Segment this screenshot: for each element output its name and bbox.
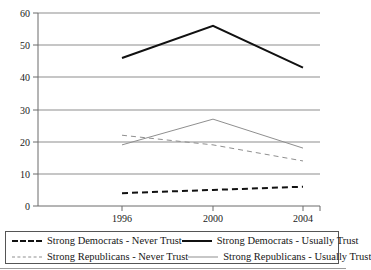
legend-item-strong-republicans-usually-trust[interactable]: Strong Republicans - Usually Trust	[188, 249, 371, 264]
y-tick-20: 20	[20, 137, 30, 148]
page-bottom-rule	[0, 268, 346, 269]
chart-legend: Strong Democrats - Never Trust Strong De…	[5, 231, 339, 264]
legend-label-dem-never-trust: Strong Democrats - Never Trust	[47, 235, 182, 247]
legend-label-rep-usually-trust: Strong Republicans - Usually Trust	[223, 251, 371, 263]
legend-row-1: Strong Democrats - Never Trust Strong De…	[6, 233, 338, 248]
legend-item-strong-democrats-never-trust[interactable]: Strong Democrats - Never Trust	[6, 233, 182, 248]
y-tick-60: 60	[20, 8, 30, 19]
y-tick-50: 50	[20, 40, 30, 51]
x-tick-2000: 2000	[203, 213, 223, 224]
y-tick-10: 10	[20, 169, 30, 180]
cropped-title-sliver	[0, 0, 346, 7]
legend-swatch-dem-usually-trust	[182, 236, 212, 246]
x-tick-2004: 2004	[293, 213, 313, 224]
x-tick-1996: 1996	[112, 213, 132, 224]
plot-area: 60 50 40 30 20 10 0 1996 2000 2004	[0, 7, 346, 226]
series-line-1	[122, 26, 303, 68]
legend-item-strong-democrats-usually-trust[interactable]: Strong Democrats - Usually Trust	[182, 233, 359, 248]
y-axis	[33, 13, 38, 206]
y-tick-40: 40	[20, 72, 30, 83]
legend-swatch-rep-usually-trust	[188, 252, 218, 262]
legend-swatch-dem-never-trust	[12, 236, 42, 246]
x-axis	[38, 206, 320, 211]
legend-label-dem-usually-trust: Strong Democrats - Usually Trust	[217, 235, 359, 247]
series-line-3	[122, 119, 303, 148]
legend-item-strong-republicans-never-trust[interactable]: Strong Republicans - Never Trust	[6, 249, 188, 264]
legend-swatch-rep-never-trust	[12, 252, 42, 262]
series-line-0	[122, 187, 303, 193]
line-chart-svg: 60 50 40 30 20 10 0 1996 2000 2004	[0, 7, 346, 226]
legend-row-2: Strong Republicans - Never Trust Strong …	[6, 249, 338, 264]
y-tick-30: 30	[20, 105, 30, 116]
y-tick-0: 0	[25, 201, 30, 212]
legend-label-rep-never-trust: Strong Republicans - Never Trust	[47, 251, 188, 263]
